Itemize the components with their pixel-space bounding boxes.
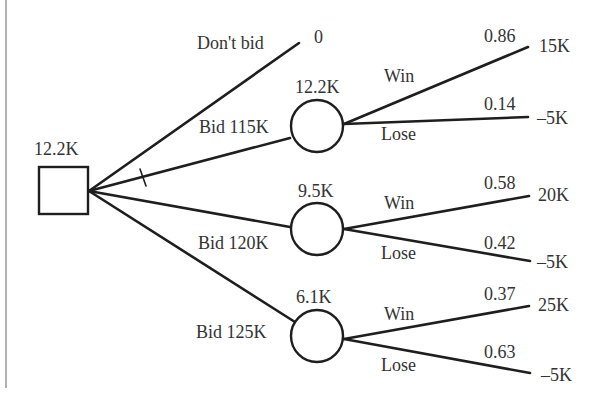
bid2-lose-label: Lose <box>381 243 416 263</box>
chance-node-bid-125k <box>291 310 343 362</box>
bid-120k-label: Bid 120K <box>198 233 269 253</box>
chance-node-bid-120k <box>291 203 343 255</box>
chance-node-3-value: 6.1K <box>296 287 332 307</box>
bid1-lose-prob: 0.14 <box>484 94 516 114</box>
bid3-win-label: Win <box>384 304 414 324</box>
bid2-lose-prob: 0.42 <box>484 233 516 253</box>
bid-115k-label: Bid 115K <box>199 117 269 137</box>
bid3-win-payoff: 25K <box>538 295 569 315</box>
outcome-bid2-win <box>344 196 529 229</box>
bid1-lose-payoff: –5K <box>536 108 568 128</box>
bid3-lose-prob: 0.63 <box>484 342 516 362</box>
bid1-win-payoff: 15K <box>539 36 570 56</box>
bid2-win-label: Win <box>384 193 414 213</box>
bid3-lose-payoff: –5K <box>540 365 572 385</box>
bid2-win-prob: 0.58 <box>484 173 516 193</box>
branch-bid-115k <box>89 138 290 191</box>
dont-bid-payoff: 0 <box>314 27 323 47</box>
decision-tree-diagram: 12.2K Don't bid 0 Bid 115K Bid 120K Bid … <box>0 0 605 401</box>
bid-125k-label: Bid 125K <box>196 322 267 342</box>
bid3-win-prob: 0.37 <box>484 284 516 304</box>
outcome-bid3-win <box>344 306 529 339</box>
bid1-win-label: Win <box>384 66 414 86</box>
bid1-win-prob: 0.86 <box>484 26 516 46</box>
dont-bid-label: Don't bid <box>197 33 264 53</box>
chance-node-2-value: 9.5K <box>298 181 334 201</box>
bid1-lose-label: Lose <box>381 124 416 144</box>
chance-node-1-value: 12.2K <box>295 77 340 97</box>
bid3-lose-label: Lose <box>381 355 416 375</box>
root-value: 12.2K <box>34 139 79 159</box>
bid2-win-payoff: 20K <box>538 185 569 205</box>
outcome-bid1-lose <box>344 117 528 124</box>
bid2-lose-payoff: –5K <box>536 252 568 272</box>
decision-node-square <box>39 167 88 214</box>
chance-node-bid-115k <box>291 100 343 152</box>
